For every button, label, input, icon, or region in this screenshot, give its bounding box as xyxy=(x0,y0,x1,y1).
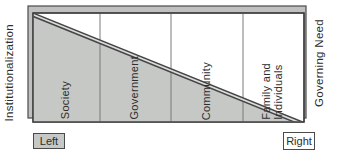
zone-label-society: Society xyxy=(59,81,71,119)
left-tag: Left xyxy=(33,133,65,149)
right-tag: Right xyxy=(283,132,315,150)
governing-need-axis-label: Governing Need xyxy=(313,19,326,107)
zone-label-government: Government xyxy=(128,56,140,120)
zone-label-community: Community xyxy=(200,62,212,120)
zone-label-family-and-individuals: Family and Individuals xyxy=(260,63,285,120)
institutionalization-axis-label: Institutionalization xyxy=(3,24,16,121)
figure-root: Institutionalization Governing Need Soci… xyxy=(0,0,338,161)
